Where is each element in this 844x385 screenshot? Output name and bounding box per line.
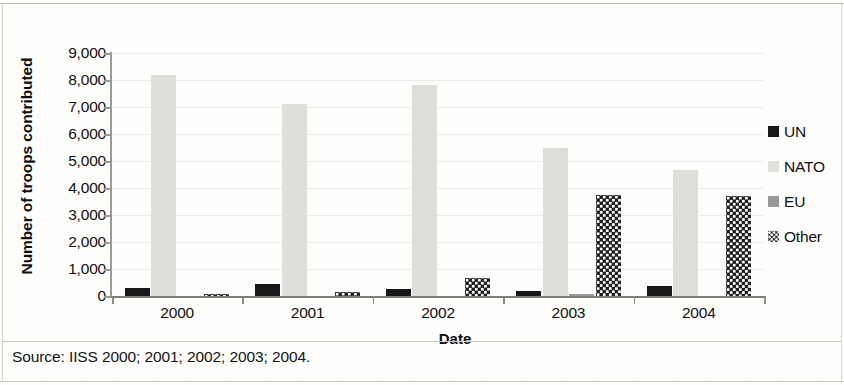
source-note: Source: IISS 2000; 2001; 2002; 2003; 200… [12,348,310,366]
gridline [112,269,764,270]
y-axis-title: Number of troops contributed [14,30,40,302]
legend-swatch-eu-icon [768,196,779,207]
bar-un-2000 [125,288,150,296]
figure-page: Number of troops contributed 01,0002,000… [0,0,844,385]
y-axis-tick-mark [104,242,111,244]
bar-other-2001 [335,292,360,296]
page-border-bottom [0,381,844,382]
gridline [112,107,764,108]
y-axis-tick-label: 8,000 [40,71,106,89]
gridline [112,80,764,81]
gridline [112,215,764,216]
gridline [112,53,764,54]
y-axis-tick-labels: 01,0002,0003,0004,0005,0006,0007,0008,00… [40,46,106,306]
y-axis-tick-label: 3,000 [40,206,106,224]
y-axis-tick-mark [104,161,111,163]
gridline [112,242,764,243]
bar-nato-2001 [282,104,307,296]
bar-un-2004 [647,286,672,296]
x-axis-tick-mark [373,297,375,304]
x-axis-tick-mark [634,297,636,304]
y-axis-tick-mark [104,107,111,109]
bar-other-2004 [726,196,751,296]
bar-un-2003 [516,291,541,296]
source-divider [3,341,841,342]
legend-label: UN [784,123,806,141]
x-axis-tick-mark [112,297,114,304]
y-axis-tick-label: 4,000 [40,179,106,197]
legend-swatch-other-icon [768,231,779,242]
y-axis-tick-label: 0 [40,287,106,305]
y-axis-title-text: Number of troops contributed [18,58,36,275]
x-axis-tick-mark [242,297,244,304]
y-axis-tick-mark [104,188,111,190]
y-axis-tick-label: 6,000 [40,125,106,143]
legend-label: NATO [784,158,825,176]
legend-item-eu[interactable]: EU [768,184,842,219]
x-axis-line [110,296,766,298]
y-axis-tick-label: 9,000 [40,44,106,62]
bar-other-2000 [204,294,229,296]
gridline [112,134,764,135]
bar-nato-2004 [673,170,698,296]
y-axis-tick-label: 5,000 [40,152,106,170]
bar-other-2003 [596,195,621,296]
legend-swatch-un-icon [768,126,779,137]
bar-un-2001 [255,284,280,296]
gridline [112,161,764,162]
chart-legend: UNNATOEUOther [768,114,842,254]
bar-nato-2002 [412,85,437,296]
x-axis-tick-label: 2003 [552,304,586,322]
y-axis-tick-label: 2,000 [40,233,106,251]
legend-item-un[interactable]: UN [768,114,842,149]
bar-chart: Number of troops contributed 01,0002,000… [0,8,844,338]
legend-label: Other [784,228,822,246]
bar-nato-2003 [543,148,568,297]
plot-area [112,53,764,296]
x-axis-tick-mark [764,297,766,304]
y-axis-tick-label: 7,000 [40,98,106,116]
x-axis-tick-label: 2004 [682,304,716,322]
page-border-top [0,3,844,4]
bar-nato-2000 [151,75,176,296]
bar-un-2002 [386,289,411,296]
y-axis-tick-mark [104,80,111,82]
bar-other-2002 [465,278,490,296]
legend-swatch-nato-icon [768,161,779,172]
legend-label: EU [784,193,805,211]
x-axis-title-text: Date [439,330,472,347]
x-axis-tick-mark [503,297,505,304]
y-axis-tick-mark [104,269,111,271]
bar-eu-2003 [569,294,594,296]
y-axis-tick-mark [104,53,111,55]
legend-item-nato[interactable]: NATO [768,149,842,184]
gridline [112,188,764,189]
legend-item-other[interactable]: Other [768,219,842,254]
plot-clip [112,53,764,296]
x-axis-tick-label: 2000 [160,304,194,322]
x-axis-tick-label: 2001 [291,304,325,322]
y-axis-tick-label: 1,000 [40,260,106,278]
y-axis-tick-mark [104,134,111,136]
x-axis-title: Date [0,330,844,347]
y-axis-tick-mark [104,296,111,298]
x-axis-tick-label: 2002 [421,304,455,322]
y-axis-tick-mark [104,215,111,217]
